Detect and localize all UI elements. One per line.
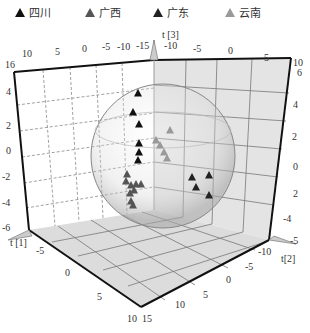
svg-text:-10: -10 — [258, 246, 271, 257]
svg-text:0: 0 — [65, 267, 70, 278]
svg-text:0: 0 — [293, 161, 298, 172]
svg-text:5: 5 — [264, 52, 269, 63]
3d-scatter-plot: 16 10 5 0 -5 -10 -15 -10 -5 0 5 10 4 2 0… — [0, 0, 310, 333]
svg-text:2: 2 — [293, 188, 298, 199]
svg-text:-5: -5 — [36, 245, 44, 256]
svg-text:-5: -5 — [245, 261, 253, 272]
left-z-ticks: 4 2 0 -2 -4 -6 — [2, 86, 11, 233]
svg-text:5: 5 — [203, 289, 208, 300]
svg-text:5: 5 — [55, 46, 60, 57]
svg-text:-4: -4 — [2, 197, 10, 208]
svg-text:10: 10 — [175, 299, 185, 310]
svg-text:-5: -5 — [102, 41, 110, 52]
svg-text:10: 10 — [127, 313, 137, 324]
svg-text:2: 2 — [6, 120, 11, 131]
svg-text:5: 5 — [97, 291, 102, 302]
svg-text:-4: -4 — [283, 213, 291, 224]
svg-text:2: 2 — [292, 131, 297, 142]
svg-text:0: 0 — [6, 145, 11, 156]
svg-text:10: 10 — [22, 48, 32, 59]
t3-axis-arrow-icon — [150, 40, 158, 60]
svg-text:16: 16 — [5, 59, 15, 70]
svg-text:-15: -15 — [136, 40, 149, 51]
svg-text:0: 0 — [82, 43, 87, 54]
svg-text:-10: -10 — [117, 41, 130, 52]
svg-text:-2: -2 — [2, 171, 10, 182]
svg-text:-6: -6 — [2, 222, 10, 233]
svg-text:4: 4 — [293, 99, 298, 110]
svg-text:4: 4 — [6, 86, 11, 97]
svg-text:-5: -5 — [193, 43, 201, 54]
svg-text:0: 0 — [228, 45, 233, 56]
t3-axis-label: t [3] — [162, 29, 179, 40]
t2-axis-label: t[2] — [281, 253, 295, 264]
t1-axis-label: t [1] — [10, 237, 27, 248]
svg-text:6: 6 — [297, 67, 302, 78]
svg-text:15: 15 — [142, 313, 152, 324]
svg-text:-10: -10 — [164, 40, 177, 51]
svg-text:0: 0 — [226, 274, 231, 285]
svg-text:-5: -5 — [290, 235, 298, 246]
confidence-ellipsoid — [91, 84, 235, 228]
